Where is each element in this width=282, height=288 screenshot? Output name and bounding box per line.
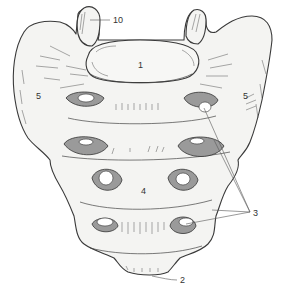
label-10: 10 (113, 15, 123, 25)
label-2: 2 (180, 275, 185, 285)
label-3: 3 (253, 208, 258, 218)
sacrum-illustration: 10 1 5 5 3 4 2 (0, 0, 282, 288)
label-4: 4 (141, 186, 146, 196)
label-1: 1 (138, 60, 143, 70)
label-5-right: 5 (243, 91, 248, 101)
label-5-left: 5 (36, 91, 41, 101)
leader-line-2 (152, 276, 177, 280)
anterior-sacral-foramen-4-right (170, 217, 196, 234)
